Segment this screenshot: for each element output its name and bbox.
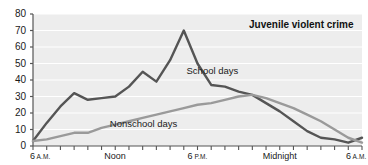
x-tick-label: 6 A.M. bbox=[30, 152, 50, 161]
x-tick-label-text: Midnight bbox=[263, 151, 297, 161]
y-tick-label: 0 bbox=[2, 141, 26, 151]
x-tick-label: Midnight bbox=[263, 152, 297, 161]
x-tick-label: Noon bbox=[104, 152, 126, 161]
series-annotation-school-days: School days bbox=[187, 65, 239, 76]
x-tick-label-text: Noon bbox=[104, 151, 126, 161]
x-tick-label: 6 A.M. bbox=[346, 152, 366, 161]
x-tick-label-meridiem: A.M. bbox=[351, 153, 366, 160]
x-tick-label-meridiem: P.M. bbox=[193, 153, 208, 160]
x-tick-label: 6 P.M. bbox=[188, 152, 208, 161]
y-tick-label: 70 bbox=[2, 26, 26, 36]
x-tick-marks-group bbox=[33, 146, 362, 150]
chart-title: Juvenile violent crime bbox=[249, 19, 354, 30]
y-tick-label: 60 bbox=[2, 42, 26, 52]
y-tick-label: 40 bbox=[2, 75, 26, 85]
y-tick-label: 10 bbox=[2, 125, 26, 135]
chart-figure: 01020304050607080 6 A.M.Noon6 P.M.Midnig… bbox=[0, 0, 368, 165]
y-tick-label: 50 bbox=[2, 59, 26, 69]
y-tick-label: 20 bbox=[2, 108, 26, 118]
y-tick-label: 80 bbox=[2, 9, 26, 19]
x-tick-label-meridiem: A.M. bbox=[35, 153, 50, 160]
series-annotation-nonschool-days: Nonschool days bbox=[110, 118, 178, 129]
y-tick-label: 30 bbox=[2, 92, 26, 102]
